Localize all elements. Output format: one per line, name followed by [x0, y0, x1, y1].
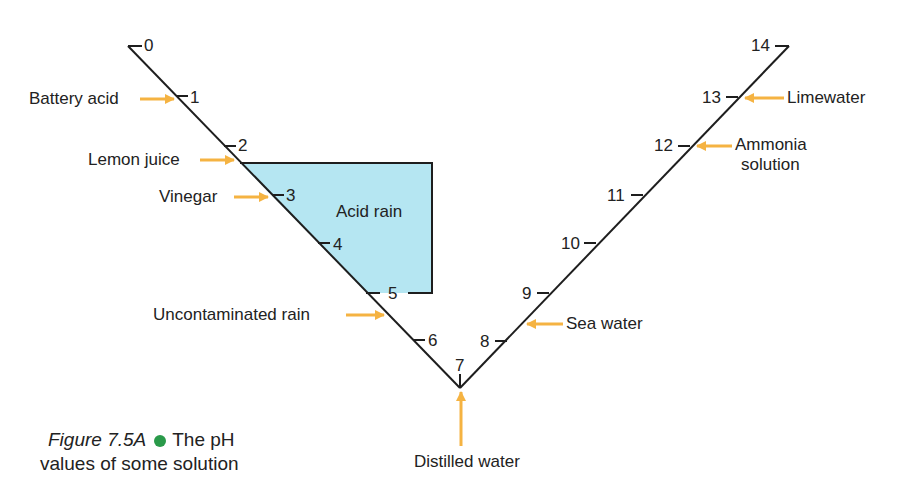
ph-v-diagram — [0, 0, 909, 482]
tick-8: 8 — [480, 332, 489, 352]
tick-7: 7 — [455, 356, 464, 376]
tick-11: 11 — [607, 186, 625, 206]
basic-scale-line — [460, 46, 789, 388]
label-uncontaminated-rain: Uncontaminated rain — [153, 305, 310, 325]
acid-rain-region — [240, 163, 432, 293]
tick-13: 13 — [702, 88, 721, 108]
bullet-icon — [154, 435, 166, 447]
tick-14: 14 — [751, 36, 770, 56]
figure-caption: Figure 7.5AThe pH values of some solutio… — [40, 428, 239, 476]
label-lemon-juice: Lemon juice — [88, 150, 180, 170]
tick-1: 1 — [190, 88, 199, 108]
label-battery-acid: Battery acid — [29, 89, 119, 109]
label-ammonia-line1: Ammonia — [735, 135, 807, 155]
figure-number: Figure 7.5A — [48, 429, 146, 450]
tick-5: 5 — [388, 284, 397, 304]
tick-10: 10 — [561, 234, 580, 254]
tick-12: 12 — [654, 136, 673, 156]
label-distilled-water: Distilled water — [414, 452, 520, 472]
tick-9: 9 — [522, 284, 531, 304]
label-vinegar: Vinegar — [159, 187, 217, 207]
tick-6: 6 — [428, 331, 437, 351]
caption-line1: The pH — [172, 429, 234, 450]
tick-3: 3 — [286, 186, 295, 206]
tick-2: 2 — [238, 136, 247, 156]
label-sea-water: Sea water — [566, 314, 643, 334]
tick-0: 0 — [144, 36, 153, 56]
acid-rain-label: Acid rain — [336, 202, 402, 222]
label-ammonia-line2: solution — [741, 155, 800, 175]
label-limewater: Limewater — [787, 88, 865, 108]
tick-4: 4 — [333, 235, 342, 255]
caption-line2: values of some solution — [40, 452, 239, 476]
